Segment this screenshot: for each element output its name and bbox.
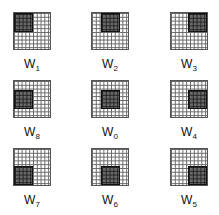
- grid: [91, 12, 129, 50]
- panel-w2: W2: [91, 12, 131, 50]
- grid: [13, 80, 51, 118]
- grid: [91, 80, 129, 118]
- window-block-bottom-center: [101, 166, 120, 185]
- label-subscript: 0: [113, 132, 117, 141]
- grid: [13, 148, 51, 186]
- panel-label: W8: [13, 126, 51, 143]
- label-subscript: 8: [35, 132, 39, 141]
- grid: [170, 12, 208, 50]
- label-main: W: [181, 57, 192, 71]
- label-subscript: 2: [113, 64, 117, 73]
- label-main: W: [102, 57, 113, 71]
- window-block-top-right: [188, 13, 207, 32]
- label-main: W: [181, 125, 192, 139]
- label-subscript: 3: [192, 64, 196, 73]
- window-block-bottom-right: [188, 166, 207, 185]
- grid: [91, 148, 129, 186]
- panel-w8: W8: [13, 80, 53, 118]
- grid: [170, 80, 208, 118]
- panel-label: W5: [170, 194, 208, 211]
- label-subscript: 4: [192, 132, 196, 141]
- label-main: W: [102, 193, 113, 207]
- grid: [13, 12, 51, 50]
- panel-label: W2: [91, 58, 129, 75]
- window-block-middle-right: [188, 90, 207, 109]
- label-subscript: 1: [35, 64, 39, 73]
- label-main: W: [181, 193, 192, 207]
- grid: [170, 148, 208, 186]
- panel-w4: W4: [170, 80, 210, 118]
- window-block-top-center: [101, 13, 120, 32]
- panel-w1: W1: [13, 12, 53, 50]
- label-subscript: 7: [35, 200, 39, 209]
- window-block-bottom-left: [14, 166, 33, 185]
- panel-label: W1: [13, 58, 51, 75]
- panel-w0: W0: [91, 80, 131, 118]
- window-block-middle-left: [14, 90, 33, 109]
- label-main: W: [102, 125, 113, 139]
- panel-label: W0: [91, 126, 129, 143]
- label-subscript: 5: [192, 200, 196, 209]
- window-block-top-left: [14, 13, 33, 32]
- window-block-center: [101, 90, 120, 109]
- label-subscript: 6: [113, 200, 117, 209]
- panel-label: W6: [91, 194, 129, 211]
- panel-label: W4: [170, 126, 208, 143]
- label-main: W: [24, 125, 35, 139]
- label-main: W: [24, 193, 35, 207]
- panel-w6: W6: [91, 148, 131, 186]
- label-main: W: [24, 57, 35, 71]
- panel-label: W7: [13, 194, 51, 211]
- panel-label: W3: [170, 58, 208, 75]
- panel-w7: W7: [13, 148, 53, 186]
- panel-w5: W5: [170, 148, 210, 186]
- panel-w3: W3: [170, 12, 210, 50]
